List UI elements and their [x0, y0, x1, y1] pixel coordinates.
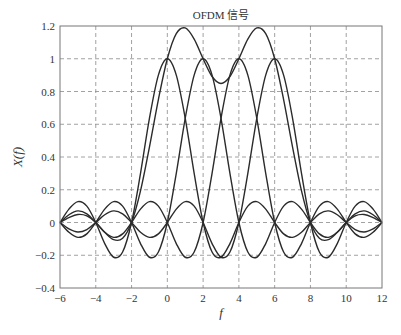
y-tick-label: −0.4 — [35, 282, 55, 294]
y-tick-label: 1 — [50, 53, 56, 65]
x-axis-label: f — [219, 305, 225, 320]
y-tick-label: 0 — [50, 217, 56, 229]
series-line — [60, 59, 382, 258]
x-tick-label: 12 — [377, 292, 388, 304]
y-tick-label: 0.4 — [41, 151, 55, 163]
series-line — [60, 59, 382, 258]
x-axis-ticks: −6−4−2024681012 — [54, 292, 387, 304]
series-line — [60, 59, 382, 258]
series-line — [60, 28, 382, 241]
x-tick-label: 0 — [165, 292, 171, 304]
series-line — [60, 59, 382, 258]
y-axis-ticks: −0.4−0.200.20.40.60.811.2 — [35, 20, 55, 294]
x-tick-label: 2 — [200, 292, 206, 304]
x-tick-label: 6 — [272, 292, 278, 304]
y-tick-label: 0.8 — [41, 86, 55, 98]
grid — [60, 26, 382, 288]
y-axis-label: X(f) — [10, 147, 25, 168]
x-tick-label: 10 — [341, 292, 353, 304]
y-tick-label: −0.2 — [35, 249, 55, 261]
x-tick-label: 8 — [308, 292, 314, 304]
plot-curves — [60, 28, 382, 258]
x-tick-label: −6 — [54, 292, 66, 304]
ofdm-chart: OFDM 信号 −6−4−2024681012 −0.4−0.200.20.40… — [0, 0, 401, 335]
x-tick-label: 4 — [236, 292, 242, 304]
chart-title: OFDM 信号 — [193, 9, 250, 21]
y-tick-label: 0.6 — [41, 118, 55, 130]
y-tick-label: 0.2 — [41, 184, 55, 196]
x-tick-label: −2 — [126, 292, 138, 304]
x-tick-label: −4 — [90, 292, 102, 304]
y-tick-label: 1.2 — [41, 20, 55, 32]
